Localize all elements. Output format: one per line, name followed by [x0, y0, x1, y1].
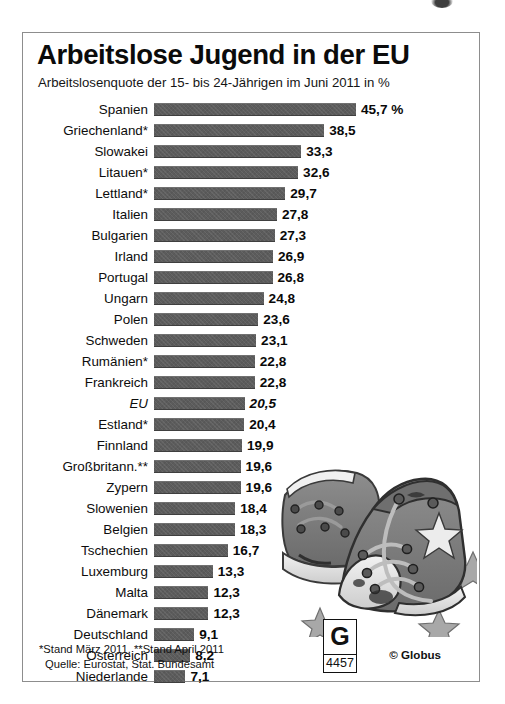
bar — [154, 565, 213, 578]
bar — [154, 145, 301, 158]
chart-row: Malta12,3 — [23, 582, 479, 603]
bar-label: Slowenien — [23, 502, 154, 515]
bar-label: Finnland — [23, 439, 154, 452]
bar-track: 22,8 — [154, 372, 479, 393]
bar-value-label: 23,6 — [263, 313, 289, 327]
bar — [154, 334, 256, 347]
chart-row: Griechenland*38,5 — [23, 120, 479, 141]
bar-track: 23,1 — [154, 330, 479, 351]
bar — [154, 418, 244, 431]
bar-value-label: 20,5 — [250, 397, 276, 411]
bar-label: Ungarn — [23, 292, 154, 305]
bar-track: 27,3 — [154, 225, 479, 246]
chart-row: Dänemark12,3 — [23, 603, 479, 624]
chart-row: Tschechien16,7 — [23, 540, 479, 561]
bar-value-label: 33,3 — [306, 145, 332, 159]
chart-row: Italien27,8 — [23, 204, 479, 225]
bar — [154, 208, 277, 221]
footnotes: *Stand März 2011, **Stand April 2011 Que… — [39, 642, 224, 672]
bar-value-label: 27,3 — [280, 229, 306, 243]
bar-value-label: 45,7 % — [361, 103, 403, 117]
bar — [154, 502, 235, 515]
chart-subtitle: Arbeitslosenquote der 15- bis 24-Jährige… — [38, 75, 390, 90]
bar-track: 20,5 — [154, 393, 479, 414]
bar — [154, 439, 242, 452]
chart-row: Estland*20,4 — [23, 414, 479, 435]
bar-track: 16,7 — [154, 540, 479, 561]
bar-label: Rumänien* — [23, 355, 154, 368]
bar-label: Schweden — [23, 334, 154, 347]
bar — [154, 481, 241, 494]
bar-label: Belgien — [23, 523, 154, 536]
chart-row: Frankreich22,8 — [23, 372, 479, 393]
bar-value-label: 24,8 — [269, 292, 295, 306]
bar — [154, 523, 235, 536]
bar-track: 45,7 % — [154, 99, 479, 120]
bar-track: 27,8 — [154, 204, 479, 225]
bar-label: Frankreich — [23, 376, 154, 389]
bar — [154, 250, 273, 263]
bar-label: Tschechien — [23, 544, 154, 557]
bar-label: Bulgarien — [23, 229, 154, 242]
bar-value-label: 26,8 — [278, 271, 304, 285]
chart-row: Belgien18,3 — [23, 519, 479, 540]
bar-value-label: 20,4 — [249, 418, 275, 432]
bar-value-label: 27,8 — [282, 208, 308, 222]
bar-track: 20,4 — [154, 414, 479, 435]
bar-value-label: 19,6 — [246, 481, 272, 495]
bar-chart: Spanien45,7 %Griechenland*38,5Slowakei33… — [23, 99, 479, 687]
chart-row: Slowenien18,4 — [23, 498, 479, 519]
globus-number: 4457 — [324, 655, 356, 672]
bar-track: 19,9 — [154, 435, 479, 456]
chart-row: Schweden23,1 — [23, 330, 479, 351]
bar — [154, 313, 258, 326]
chart-row: Rumänien*22,8 — [23, 351, 479, 372]
chart-row: Luxemburg13,3 — [23, 561, 479, 582]
bar-track: 13,3 — [154, 561, 479, 582]
bar — [154, 397, 245, 410]
footnote-line-2: Quelle: Eurostat, Stat. Bundesamt — [39, 657, 224, 672]
chart-row: Litauen*32,6 — [23, 162, 479, 183]
bar — [154, 187, 285, 200]
bar — [154, 292, 264, 305]
chart-row: Lettland*29,7 — [23, 183, 479, 204]
globus-logo-box: G 4457 — [323, 619, 357, 673]
bar-track: 19,6 — [154, 477, 479, 498]
bar-label: Italien — [23, 208, 154, 221]
bar-track: 26,8 — [154, 267, 479, 288]
bar-track: 32,6 — [154, 162, 479, 183]
bar-label: Deutschland — [23, 628, 154, 641]
bar-value-label: 29,7 — [290, 187, 316, 201]
globus-g-icon: G — [324, 620, 356, 655]
bar-value-label: 12,3 — [213, 607, 239, 621]
chart-row: Großbritann.**19,6 — [23, 456, 479, 477]
bar-track: 29,7 — [154, 183, 479, 204]
bar — [154, 460, 241, 473]
bar-track: 22,8 — [154, 351, 479, 372]
chart-row: Spanien45,7 % — [23, 99, 479, 120]
bar-value-label: 16,7 — [233, 544, 259, 558]
bar-value-label: 19,9 — [247, 439, 273, 453]
footnote-line-1: *Stand März 2011, **Stand April 2011 — [39, 642, 224, 657]
bar-value-label: 23,1 — [261, 334, 287, 348]
bar-value-label: 13,3 — [218, 565, 244, 579]
bar-value-label: 38,5 — [329, 124, 355, 138]
bar-label: Polen — [23, 313, 154, 326]
bar-value-label: 18,3 — [240, 523, 266, 537]
bar-track: 33,3 — [154, 141, 479, 162]
chart-row: Zypern19,6 — [23, 477, 479, 498]
page-corner-mark — [431, 0, 453, 8]
chart-row: Slowakei33,3 — [23, 141, 479, 162]
bar-track: 38,5 — [154, 120, 479, 141]
bar-value-label: 18,4 — [240, 502, 266, 516]
chart-row: Portugal26,8 — [23, 267, 479, 288]
bar — [154, 124, 324, 137]
bar — [154, 628, 194, 641]
bar-label: Zypern — [23, 481, 154, 494]
chart-row: Polen23,6 — [23, 309, 479, 330]
chart-row: Finnland19,9 — [23, 435, 479, 456]
bar — [154, 271, 273, 284]
bar-label: Dänemark — [23, 607, 154, 620]
bar-track: 19,6 — [154, 456, 479, 477]
chart-row: Ungarn24,8 — [23, 288, 479, 309]
